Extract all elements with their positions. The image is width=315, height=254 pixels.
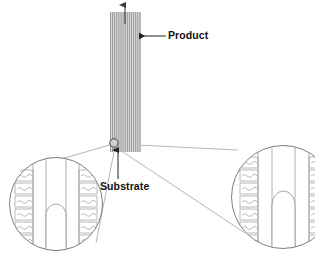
striped-column: [110, 12, 141, 152]
diagram-canvas: Product Substrate: [0, 0, 315, 254]
product-label: Product: [168, 29, 208, 41]
inset-right: [230, 144, 315, 254]
substrate-label: Substrate: [100, 180, 149, 192]
substrate-marker: [110, 139, 118, 147]
diagram-vector-layer: [0, 0, 315, 254]
